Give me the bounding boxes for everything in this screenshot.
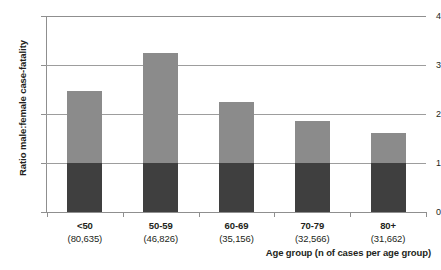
- bar-slot: [274, 16, 350, 212]
- bar-segment-above-reference: [295, 121, 330, 163]
- bar-segment-below-reference: [67, 163, 102, 212]
- x-category-count: (31,662): [337, 232, 439, 245]
- x-axis-title: Age group (n of cases per age group): [266, 247, 431, 258]
- bar-segment-below-reference: [143, 163, 178, 212]
- bar-slot: [47, 16, 123, 212]
- bar[interactable]: [371, 133, 406, 212]
- bar[interactable]: [67, 91, 102, 212]
- y-axis-title: Ratio male:female case-fatality: [14, 2, 30, 214]
- x-category-name: 80+: [337, 219, 439, 232]
- bar-slot: [350, 16, 426, 212]
- bar-slot: [199, 16, 275, 212]
- bar-segment-above-reference: [143, 53, 178, 163]
- x-tick-mark: [199, 212, 200, 217]
- x-tick-mark: [123, 212, 124, 217]
- bar[interactable]: [295, 121, 330, 212]
- bar-slot: [123, 16, 199, 212]
- bar-segment-above-reference: [67, 91, 102, 163]
- y-tick-mark-0: [41, 212, 46, 213]
- bar-segment-below-reference: [295, 163, 330, 212]
- bar-segment-below-reference: [219, 163, 254, 212]
- chart-figure: Ratio male:female case-fatality 01234 <5…: [0, 0, 441, 270]
- x-tick-mark: [426, 212, 427, 217]
- x-tick-mark: [350, 212, 351, 217]
- x-tick-mark: [274, 212, 275, 217]
- bar-segment-below-reference: [371, 163, 406, 212]
- x-axis-line: [46, 212, 427, 213]
- bar[interactable]: [219, 102, 254, 212]
- bar[interactable]: [143, 53, 178, 212]
- bar-segment-above-reference: [219, 102, 254, 163]
- x-tick-mark: [47, 212, 48, 217]
- x-category-label: 80+(31,662): [337, 219, 439, 245]
- bar-series: [47, 16, 426, 212]
- bar-segment-above-reference: [371, 133, 406, 163]
